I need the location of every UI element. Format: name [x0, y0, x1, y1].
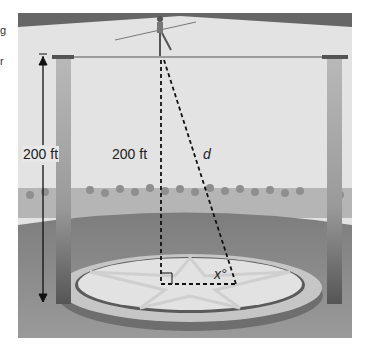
pole-height-label: 200 ft	[22, 146, 59, 162]
hypotenuse-label: d	[203, 146, 211, 162]
tightrope-diagram	[0, 0, 365, 351]
angle-label: x°	[214, 266, 227, 282]
circus-ring	[57, 254, 323, 331]
vertical-height-label: 200 ft	[112, 146, 147, 162]
